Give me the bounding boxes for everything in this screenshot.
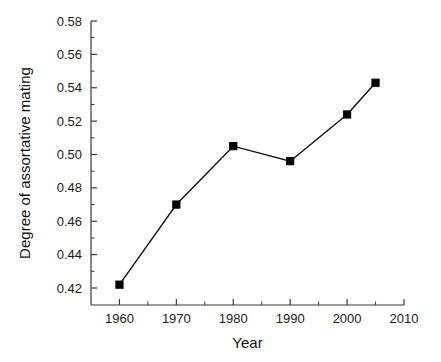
y-tick-label: 0.44 (57, 247, 82, 262)
data-point-marker (173, 201, 180, 208)
y-tick-label: 0.50 (57, 147, 82, 162)
x-tick-label: 1980 (219, 311, 248, 326)
data-point-marker (343, 111, 350, 118)
data-point-marker (116, 281, 123, 288)
x-tick-label: 1960 (105, 311, 134, 326)
y-tick-label: 0.52 (57, 114, 82, 129)
y-tick-label: 0.48 (57, 180, 82, 195)
chart-figure: 0.420.440.460.480.500.520.540.560.581960… (0, 0, 441, 362)
line-chart-canvas: 0.420.440.460.480.500.520.540.560.581960… (0, 0, 441, 362)
y-axis-title: Degree of assortative mating (16, 67, 33, 259)
y-tick-label: 0.42 (57, 281, 82, 296)
x-tick-label: 2000 (333, 311, 362, 326)
data-point-marker (230, 143, 237, 150)
x-tick-label: 2010 (390, 311, 419, 326)
x-tick-label: 1970 (162, 311, 191, 326)
x-axis-title: Year (232, 334, 262, 351)
y-tick-label: 0.58 (57, 14, 82, 29)
y-tick-label: 0.56 (57, 47, 82, 62)
x-tick-label: 1990 (276, 311, 305, 326)
series-line-assortative-mating (119, 83, 375, 285)
y-tick-label: 0.54 (57, 80, 82, 95)
data-point-marker (287, 158, 294, 165)
data-point-marker (372, 79, 379, 86)
y-tick-label: 0.46 (57, 214, 82, 229)
